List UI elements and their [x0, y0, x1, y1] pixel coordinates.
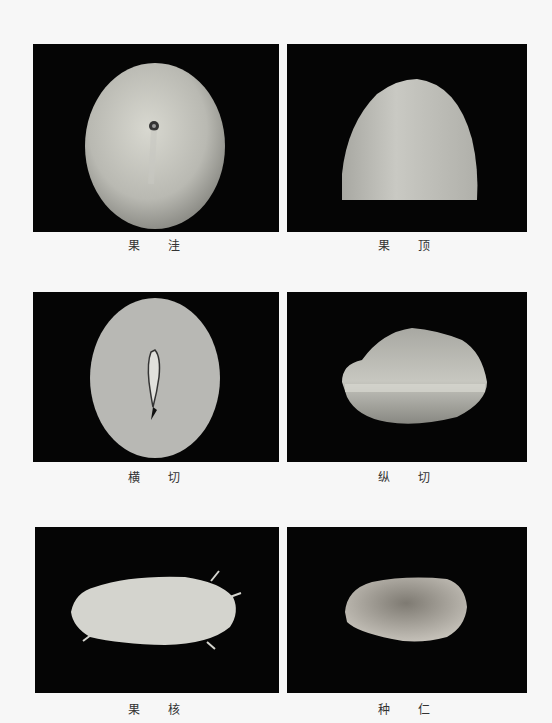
figure-fruit-basin	[33, 44, 279, 232]
figure-fruit-stone	[35, 527, 279, 693]
caption-seed-kernel: 种 仁	[350, 700, 470, 717]
figure-cross-section	[33, 292, 279, 462]
fruit-basin-photo	[33, 44, 279, 232]
seed-kernel-photo	[287, 527, 527, 693]
figure-seed-kernel	[287, 527, 527, 693]
caption-longitudinal-section: 纵 切	[350, 468, 470, 485]
figure-longitudinal-section	[287, 292, 527, 462]
figure-fruit-apex	[287, 44, 527, 232]
fruit-stone-photo	[35, 527, 279, 693]
longitudinal-section-photo	[287, 292, 527, 462]
caption-fruit-stone: 果 核	[100, 700, 220, 717]
caption-fruit-basin: 果 洼	[100, 236, 220, 253]
fruit-apex-photo	[287, 44, 527, 232]
caption-fruit-apex: 果 顶	[350, 236, 470, 253]
caption-cross-section: 横 切	[100, 468, 220, 485]
cross-section-photo	[33, 292, 279, 462]
